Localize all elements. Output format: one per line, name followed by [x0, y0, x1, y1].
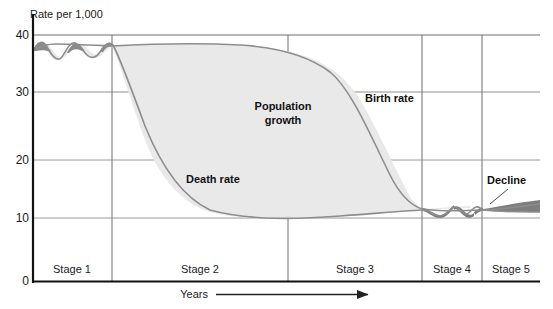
y-axis-title: Rate per 1,000 — [30, 8, 103, 20]
stage-label-5: Stage 5 — [492, 263, 530, 275]
stage-label-4: Stage 4 — [433, 263, 471, 275]
ytick-label-0: 0 — [22, 274, 29, 288]
ytick-label-30: 30 — [16, 85, 30, 99]
death-rate-label: Death rate — [186, 173, 240, 185]
stage-label-1: Stage 1 — [53, 263, 91, 275]
chart-svg: Rate per 1,000 40 30 20 10 0 — [0, 0, 553, 309]
stage-label-3: Stage 3 — [336, 263, 374, 275]
x-axis-title: Years — [180, 288, 208, 300]
birth-rate-label: Birth rate — [365, 92, 414, 104]
decline-label: Decline — [487, 174, 526, 186]
stage-label-2: Stage 2 — [181, 263, 219, 275]
demographic-transition-chart: Rate per 1,000 40 30 20 10 0 — [0, 0, 553, 309]
population-growth-label-line1: Population — [255, 100, 312, 112]
ytick-label-20: 20 — [16, 153, 30, 167]
population-growth-label-line2: growth — [265, 114, 302, 126]
ytick-label-10: 10 — [16, 211, 30, 225]
ytick-label-40: 40 — [16, 28, 30, 42]
